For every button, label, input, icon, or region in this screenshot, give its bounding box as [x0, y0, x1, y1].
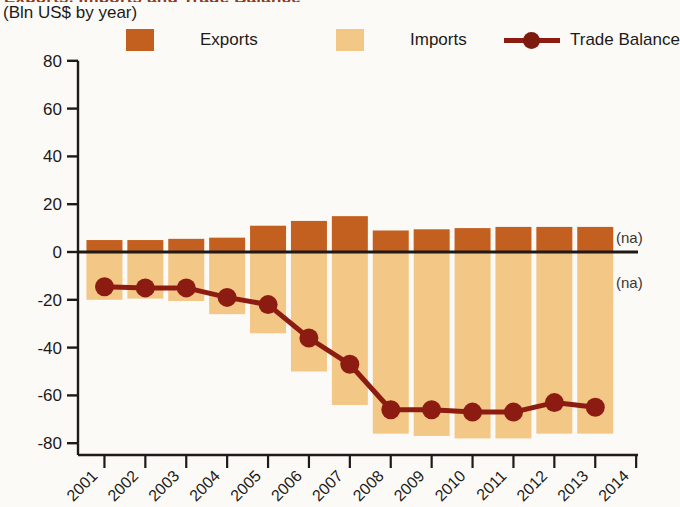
na-label-below: (na)	[616, 274, 643, 291]
x-axis-tick-label: 2007	[309, 467, 346, 504]
x-axis-tick-label: 2010	[431, 467, 468, 504]
bar-exports	[536, 227, 572, 252]
x-axis-tick-label: 2012	[513, 467, 550, 504]
x-axis-tick-label: 2005	[227, 467, 264, 504]
trade-balance-marker	[177, 278, 196, 297]
x-axis-tick-label: 2003	[145, 467, 182, 504]
trade-balance-marker	[218, 288, 237, 307]
trade-balance-marker	[340, 355, 359, 374]
trade-balance-marker	[136, 278, 155, 297]
x-axis-tick-label: 2008	[350, 467, 387, 504]
bar-exports	[86, 240, 122, 252]
trade-balance-marker	[586, 398, 605, 417]
y-axis-tick-label: 40	[43, 147, 62, 166]
bar-exports	[495, 227, 531, 252]
bar-exports	[250, 226, 286, 252]
x-axis-tick-label: 2011	[473, 467, 509, 503]
bar-exports	[577, 227, 613, 252]
y-axis-tick-label: -60	[37, 386, 62, 405]
trade-balance-marker	[463, 403, 482, 422]
trade-balance-marker	[95, 277, 114, 296]
bar-exports	[332, 216, 368, 252]
trade-balance-marker	[381, 400, 400, 419]
trade-balance-marker	[299, 329, 318, 348]
trade-balance-marker	[259, 295, 278, 314]
x-axis-tick-label: 2002	[104, 467, 141, 504]
bar-exports	[414, 229, 450, 252]
bar-exports	[373, 230, 409, 252]
y-axis-tick-label: 0	[53, 243, 62, 262]
trade-balance-marker	[422, 400, 441, 419]
y-axis-tick-label: 80	[43, 52, 62, 71]
trade-balance-marker	[545, 393, 564, 412]
x-axis-tick-label: 2004	[186, 467, 223, 504]
x-axis-tick-label: 2001	[63, 467, 100, 504]
y-axis-tick-label: 60	[43, 100, 62, 119]
bar-exports	[168, 239, 204, 252]
x-axis-tick-label: 2009	[391, 467, 428, 504]
x-axis-tick-label: 2014	[595, 467, 632, 504]
bar-exports	[291, 221, 327, 252]
y-axis-tick-label: -20	[37, 291, 62, 310]
na-label-above: (na)	[616, 229, 643, 246]
x-axis-tick-label: 2006	[268, 467, 305, 504]
x-axis-tick-label: 2013	[554, 467, 591, 504]
bar-exports	[455, 228, 491, 252]
trade-balance-marker	[504, 403, 523, 422]
y-axis-tick-label: 20	[43, 195, 62, 214]
y-axis-tick-label: -40	[37, 339, 62, 358]
bar-exports	[127, 240, 163, 252]
y-axis-tick-label: -80	[37, 434, 62, 453]
bar-imports	[291, 252, 327, 372]
bar-exports	[209, 238, 245, 252]
bar-imports	[250, 252, 286, 333]
